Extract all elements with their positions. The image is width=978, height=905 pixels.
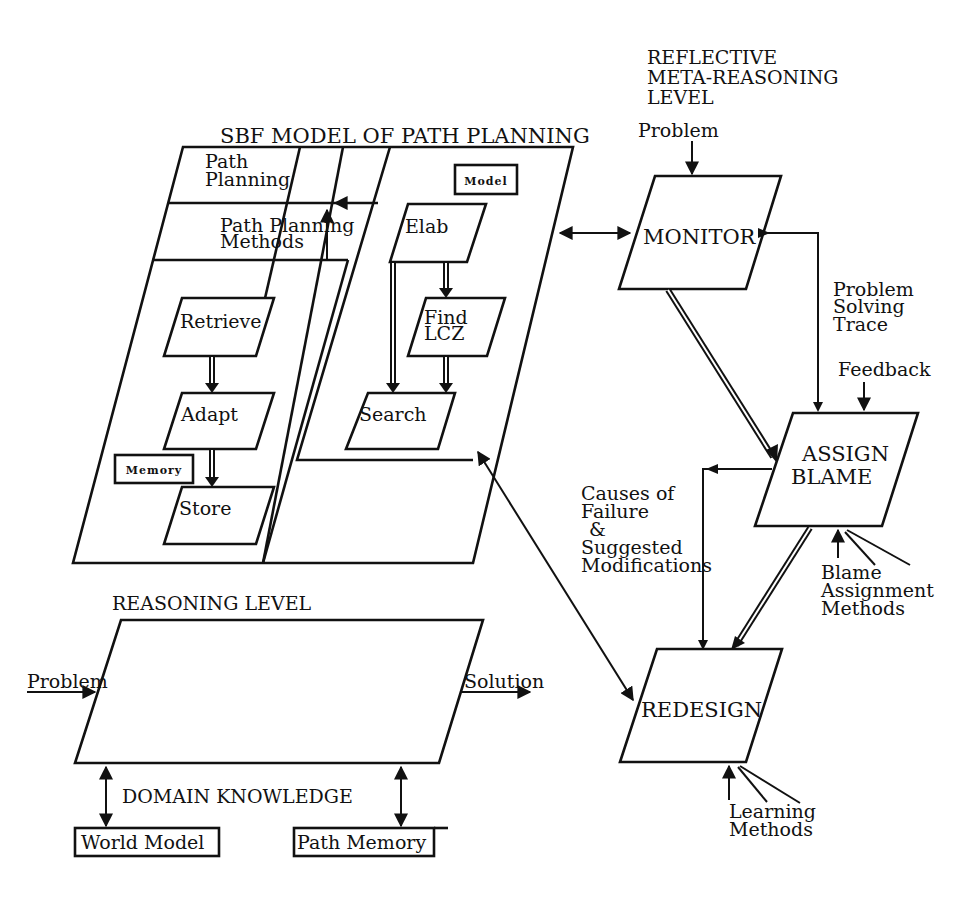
task-elab-label: Elab <box>405 215 448 237</box>
blame-methods-label-3: Methods <box>821 597 905 619</box>
model-tag-label: Model <box>464 175 507 188</box>
sbf-model-title: SBF MODEL OF PATH PLANNING <box>220 124 590 148</box>
task-store-label: Store <box>179 497 231 519</box>
meta-problem-input: Problem <box>638 119 719 141</box>
meta-title-1: REFLECTIVE <box>647 46 777 68</box>
world-model-label: World Model <box>81 831 204 853</box>
domain-knowledge-title: DOMAIN KNOWLEDGE <box>122 785 353 807</box>
architecture-diagram: SBF MODEL OF PATH PLANNING Path Planning… <box>0 0 978 905</box>
path-planning-label-2: Planning <box>205 168 290 190</box>
learning-methods-label-2: Methods <box>729 818 813 840</box>
meta-title-3: LEVEL <box>647 86 714 108</box>
reasoning-level-group: REASONING LEVEL Problem Solution DOMAIN … <box>27 592 544 856</box>
sbf-outer-frame <box>73 147 573 563</box>
task-search-label: Search <box>359 403 427 425</box>
trace-label-3: Trace <box>833 313 888 335</box>
path-memory-label: Path Memory <box>297 831 426 853</box>
reasoning-level-frame <box>75 620 483 763</box>
task-lcz-label: LCZ <box>424 322 464 344</box>
task-adapt-label: Adapt <box>180 403 238 425</box>
assign-blame-label-2: BLAME <box>791 465 872 489</box>
feedback-label: Feedback <box>838 358 931 380</box>
reasoning-problem-input: Problem <box>27 670 108 692</box>
causes-label-5: Modifications <box>581 554 712 576</box>
task-retrieve-label: Retrieve <box>180 310 262 332</box>
meta-title-2: META-REASONING <box>647 66 839 88</box>
memory-tag-label: Memory <box>126 464 182 477</box>
monitor-label: MONITOR <box>643 225 757 249</box>
sbf-model-group: SBF MODEL OF PATH PLANNING Path Planning… <box>73 124 590 563</box>
reasoning-solution-output: Solution <box>464 670 544 692</box>
path-planning-methods-label-2: Methods <box>220 230 304 252</box>
assign-blame-label-1: ASSIGN <box>801 442 889 466</box>
reasoning-level-title: REASONING LEVEL <box>112 592 312 614</box>
redesign-label: REDESIGN <box>641 698 762 722</box>
